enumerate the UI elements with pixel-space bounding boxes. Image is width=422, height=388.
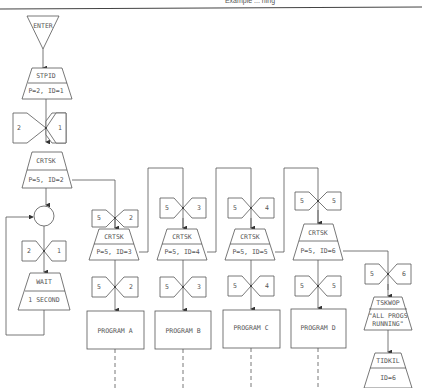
sync-right-value: 3 xyxy=(197,204,201,212)
crtsk-title: CRTSK xyxy=(240,233,260,241)
crtsk-params: P=5, ID=4 xyxy=(164,248,199,256)
enter-terminal: ENTER xyxy=(27,16,59,49)
crtsk-main-params: P=5, ID=2 xyxy=(28,176,63,184)
branch-c: 5 4 CRTSK P=5, ID=5 5 4 PROGRAM C xyxy=(223,198,280,388)
branch-a: 5 2 CRTSK P=5, ID=3 5 2 PROGRAM A xyxy=(87,210,144,388)
sync-left-value: 5 xyxy=(165,204,169,212)
branch-b: 5 3 CRTSK P=5, ID=4 5 3 PROGRAM B xyxy=(155,198,211,388)
crtsk-branch-b: CRTSK P=5, ID=4 xyxy=(157,229,207,260)
tskwop-message-line1: "ALL PROGS xyxy=(368,312,407,320)
program-label: PROGRAM C xyxy=(233,324,268,332)
tskwop-message-line2: RUNNING" xyxy=(372,320,403,328)
sync-left-value: 5 xyxy=(97,214,101,222)
sync-right-value: 4 xyxy=(265,282,269,290)
crtsk-main-block: CRTSK P=5, ID=2 xyxy=(22,152,72,188)
sync-left-value: 5 xyxy=(300,197,304,205)
crtsk-params: P=5, ID=5 xyxy=(232,248,267,256)
crtsk-params: P=5, ID=3 xyxy=(96,248,131,256)
sync-main-1: 2 1 xyxy=(13,113,66,143)
sync-right-value: 2 xyxy=(129,214,133,222)
sync-right-value: 3 xyxy=(197,283,201,291)
tidkil-block: TIDKIL ID=6 xyxy=(364,353,412,388)
flowchart-diagram: ENTER STPID P=2, ID=1 2 1 CRTSK P=5, ID=… xyxy=(0,0,422,388)
sync-left-value: 2 xyxy=(17,124,21,132)
sync-right-value: 5 xyxy=(332,282,336,290)
tidkil-params: ID=6 xyxy=(380,374,396,382)
sync-right-value: 6 xyxy=(402,270,406,278)
crtsk-title: CRTSK xyxy=(308,229,328,237)
sync-left-value: 2 xyxy=(27,247,31,255)
sync-right-value: 2 xyxy=(129,283,133,291)
branch-d: 5 5 CRTSK P=5, ID=6 5 5 PROGRAM D xyxy=(291,192,346,388)
crtsk-params: P=5, ID=6 xyxy=(300,247,335,255)
wait-block: WAIT 1 SECOND xyxy=(18,273,70,310)
sync-right-value: 4 xyxy=(265,204,269,212)
crtsk-branch-a: CRTSK P=5, ID=3 xyxy=(89,229,139,260)
enter-label: ENTER xyxy=(33,22,53,30)
sync-left-value: 5 xyxy=(370,270,374,278)
crtsk-title: CRTSK xyxy=(104,233,124,241)
sync-left-value: 5 xyxy=(165,283,169,291)
stpid-block: STPID P=2, ID=1 xyxy=(22,68,72,99)
program-label: PROGRAM A xyxy=(97,327,132,335)
sync-left-value: 5 xyxy=(233,282,237,290)
sync-left-value: 5 xyxy=(97,283,101,291)
crtsk-branch-c: CRTSK P=5, ID=5 xyxy=(225,229,275,260)
tidkil-title: TIDKIL xyxy=(376,357,400,365)
wait-title: WAIT xyxy=(36,278,52,286)
sync-left-value: 5 xyxy=(300,282,304,290)
tskwop-block: TSKWOP "ALL PROGS RUNNING" xyxy=(364,297,412,330)
sync-left-value: 5 xyxy=(233,204,237,212)
crtsk-title: CRTSK xyxy=(172,233,192,241)
stpid-params: P=2, ID=1 xyxy=(28,87,63,95)
crtsk-branch-d: CRTSK P=5, ID=6 xyxy=(293,224,343,260)
program-label: PROGRAM D xyxy=(300,324,335,332)
junction-connector xyxy=(34,206,54,226)
sync-right-value: 1 xyxy=(58,124,62,132)
stpid-title: STPID xyxy=(36,72,56,80)
tskwop-title: TSKWOP xyxy=(376,299,400,307)
crtsk-main-title: CRTSK xyxy=(36,157,56,165)
sync-right-value: 5 xyxy=(332,197,336,205)
header-rule xyxy=(0,7,422,9)
program-label: PROGRAM B xyxy=(165,327,200,335)
wait-params: 1 SECOND xyxy=(28,296,59,304)
sync-right-value: 1 xyxy=(57,247,61,255)
